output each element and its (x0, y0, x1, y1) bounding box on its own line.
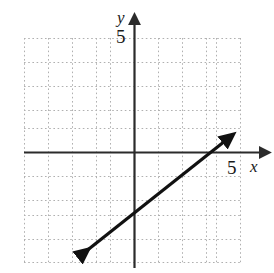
x-axis-label: x (250, 158, 258, 175)
y-axis-tick-label-5: 5 (116, 27, 126, 46)
plotted-line (80, 141, 225, 256)
x-axis-tick-label-5: 5 (227, 158, 237, 177)
graph-canvas (0, 0, 274, 273)
coordinate-plane-figure: y 5 5 x (0, 0, 274, 273)
grid-lines-vertical (25, 38, 241, 263)
y-axis-label: y (117, 9, 125, 26)
grid-lines-horizontal (24, 39, 240, 263)
